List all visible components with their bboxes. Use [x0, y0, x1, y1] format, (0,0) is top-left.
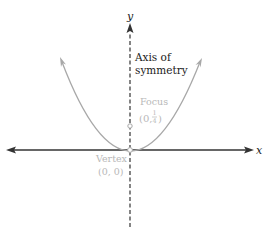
focus-coordinate: (0, 1 4 )	[139, 109, 162, 125]
axis-of-symmetry-label-line1: Axis of	[134, 51, 172, 63]
focus-point	[128, 124, 132, 128]
vertex-point	[128, 148, 133, 153]
focus-coord-denominator: 4	[153, 117, 157, 125]
vertex-label: Vertex	[95, 153, 128, 164]
y-axis-up-arrow-icon	[127, 23, 134, 33]
focus-coord-open: (0,	[139, 113, 152, 124]
focus-label: Focus	[140, 96, 168, 107]
focus-coord-numerator: 1	[153, 109, 157, 117]
focus-coord-close: )	[158, 113, 162, 124]
y-axis-label: y	[126, 10, 134, 23]
vertex-coordinate: (0, 0)	[98, 166, 124, 177]
x-axis-label: x	[256, 144, 263, 157]
axis-of-symmetry-label-line2: symmetry	[135, 64, 188, 76]
parabola-diagram: y x Axis of symmetry Focus (0, 1 4 ) Ver…	[0, 0, 264, 227]
